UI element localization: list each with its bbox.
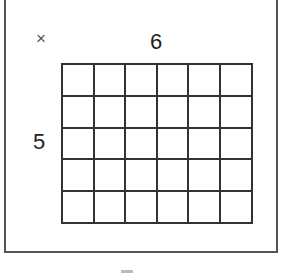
grid-cell [95, 129, 127, 161]
array-grid [61, 63, 253, 224]
grid-cell [189, 65, 221, 97]
grid-cell [95, 160, 127, 192]
grid-cell [189, 192, 221, 224]
grid-cell [221, 192, 253, 224]
column-count-label: 6 [150, 31, 162, 53]
grid-cell [63, 97, 95, 129]
grid-cell [95, 65, 127, 97]
grid-cell [126, 65, 158, 97]
grid-cell [158, 97, 190, 129]
grid-cell [63, 129, 95, 161]
grid-cell [63, 65, 95, 97]
grid-cell [158, 65, 190, 97]
grid-cell [158, 192, 190, 224]
grid-cell [126, 192, 158, 224]
grid-cell [221, 160, 253, 192]
grid-cell [221, 129, 253, 161]
grid-cell [189, 160, 221, 192]
grid-cell [126, 160, 158, 192]
grid-cell [221, 97, 253, 129]
grid-cell [63, 160, 95, 192]
multiplication-sign-icon: × [36, 30, 46, 47]
grid-cell [158, 160, 190, 192]
grid-cell [126, 129, 158, 161]
grid-cell [63, 192, 95, 224]
grid-cell [158, 129, 190, 161]
row-count-label: 5 [33, 131, 45, 153]
grid-cell [189, 97, 221, 129]
grid-cell [126, 97, 158, 129]
grid-cell [95, 97, 127, 129]
grid-cell [189, 129, 221, 161]
grid-cell [221, 65, 253, 97]
grid-cell [95, 192, 127, 224]
